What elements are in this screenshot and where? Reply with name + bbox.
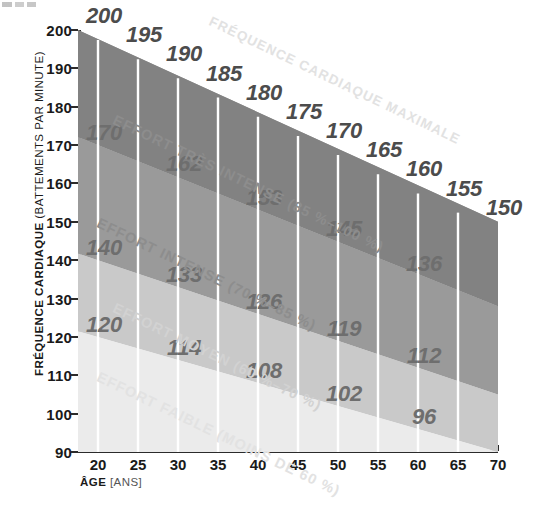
value-moyen-60: 96	[412, 404, 436, 430]
y-tick-mark-120	[71, 336, 78, 338]
y-tick-mark-160	[71, 182, 78, 184]
x-tick-65: 65	[438, 456, 478, 473]
value-max-25: 195	[126, 22, 162, 48]
y-tick-90: 90	[28, 444, 72, 461]
x-tick-20: 20	[78, 456, 118, 473]
y-tick-mark-150	[71, 221, 78, 223]
y-tick-mark-100	[71, 413, 78, 415]
value-max-20: 200	[86, 3, 122, 29]
value-max-40: 180	[246, 80, 282, 106]
heart-rate-zone-chart: 90100110120130140150160170180190200 FRÉQ…	[0, 0, 537, 519]
y-axis-title: FRÉQUENCE CARDIAQUE (BATTEMENTS PAR MINU…	[33, 126, 45, 376]
y-tick-mark-130	[71, 298, 78, 300]
value-intense-50: 119	[327, 316, 361, 342]
y-tick-mark-170	[71, 144, 78, 146]
x-tick-35: 35	[198, 456, 238, 473]
x-tick-70: 70	[478, 456, 518, 473]
value-max-70: 150	[486, 195, 522, 221]
value-max-35: 185	[206, 61, 242, 87]
x-tick-55: 55	[358, 456, 398, 473]
value-tres-intense-60: 136	[406, 251, 442, 277]
x-tick-60: 60	[398, 456, 438, 473]
y-tick-100: 100	[28, 405, 72, 422]
y-axis-title-unit: (BATTEMENTS PAR MINUTE)	[33, 51, 45, 219]
y-tick-mark-180	[71, 106, 78, 108]
x-axis-title-unit: [ANS]	[110, 476, 142, 488]
value-max-60: 160	[406, 156, 442, 182]
y-axis-title-main: FRÉQUENCE CARDIAQUE	[33, 222, 45, 376]
y-tick-mark-200	[71, 29, 78, 31]
y-tick-mark-110	[71, 374, 78, 376]
value-intense-60: 112	[407, 343, 441, 369]
y-tick-200: 200	[28, 22, 72, 39]
y-tick-mark-190	[71, 67, 78, 69]
plot-area: 2001951901851801751701651601551501701621…	[78, 30, 498, 452]
value-max-65: 155	[446, 176, 482, 202]
value-max-50: 170	[326, 118, 362, 144]
value-max-45: 175	[286, 99, 322, 125]
value-max-30: 190	[166, 41, 202, 67]
x-tick-30: 30	[158, 456, 198, 473]
x-tick-50: 50	[318, 456, 358, 473]
x-axis-title-main: ÂGE	[80, 476, 106, 488]
value-moyen-50: 102	[326, 381, 362, 407]
x-tick-25: 25	[118, 456, 158, 473]
value-max-55: 165	[366, 137, 402, 163]
y-tick-mark-140	[71, 259, 78, 261]
y-tick-mark-90	[71, 451, 78, 453]
x-axis-title: ÂGE [ANS]	[80, 476, 142, 488]
